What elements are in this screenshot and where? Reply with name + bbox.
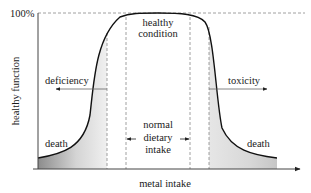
x-axis-label: metal intake: [139, 178, 191, 189]
normal-intake-line1: normal: [143, 119, 173, 130]
healthy-condition-line2: condition: [138, 28, 178, 39]
deficiency-label: deficiency: [45, 75, 89, 86]
death-right-label: death: [247, 138, 270, 149]
toxicity-label: toxicity: [228, 75, 261, 86]
normal-intake-line3: intake: [145, 144, 171, 155]
y-top-tick-label: 100%: [10, 8, 35, 19]
metal-intake-diagram: 100% healthy function metal intake healt…: [0, 0, 311, 193]
death-left-label: death: [45, 138, 68, 149]
healthy-condition-line1: healthy: [143, 17, 175, 28]
normal-intake-line2: dietary: [143, 132, 173, 143]
y-axis-label: healthy function: [10, 56, 21, 125]
